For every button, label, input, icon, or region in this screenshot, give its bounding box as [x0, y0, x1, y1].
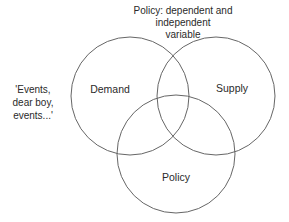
diagram-title-line-1: Policy: dependent and independent: [108, 5, 258, 29]
events-quote-line-2: dear boy,: [4, 96, 62, 109]
policy-circle: [117, 95, 235, 213]
events-quote-line-3: events...': [4, 109, 62, 122]
supply-circle: [157, 37, 275, 155]
demand-circle: [71, 37, 189, 155]
events-quote-line-1: 'Events,: [4, 83, 62, 96]
events-quote: 'Events, dear boy, events...': [4, 83, 62, 122]
demand-label: Demand: [90, 83, 130, 95]
diagram-title-line-2: variable: [108, 29, 258, 41]
policy-label: Policy: [162, 171, 190, 183]
diagram-title: Policy: dependent and independent variab…: [108, 5, 258, 41]
supply-label: Supply: [216, 82, 248, 94]
